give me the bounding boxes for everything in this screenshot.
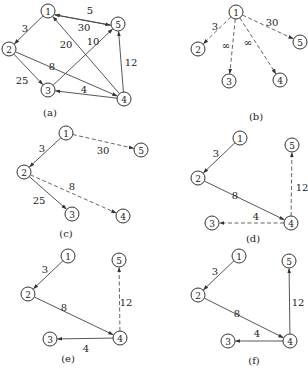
- edge-weight-label: 8: [234, 308, 240, 319]
- node-label: 1: [237, 134, 243, 144]
- node-label: 4: [277, 76, 283, 86]
- node-label: 3: [226, 77, 232, 87]
- edges: 38124: [203, 261, 304, 341]
- edge-weight-label: 8: [49, 61, 55, 72]
- dijkstra-figure: 3530258102041212345(a)3∞∞3012345(b)33025…: [0, 0, 308, 368]
- node-4: 4: [283, 334, 297, 348]
- edge-weight-label: 25: [16, 75, 29, 86]
- edge-weight-label: 12: [125, 57, 138, 68]
- edge-weight-label: ∞: [244, 37, 252, 48]
- panel-c: 33025812345(c): [17, 126, 148, 239]
- edge-1-to-2-arrow: [203, 261, 233, 290]
- node-2: 2: [21, 287, 35, 301]
- node-1: 1: [61, 249, 75, 263]
- panel-e: 3812412345(e): [21, 249, 132, 364]
- node-2: 2: [2, 42, 16, 56]
- panel-caption: (f): [248, 355, 260, 366]
- node-label: 3: [225, 337, 231, 347]
- node-3: 3: [221, 334, 235, 348]
- node-label: 2: [25, 290, 31, 300]
- edge-weight-label: 4: [254, 328, 260, 339]
- node-label: 2: [6, 45, 12, 55]
- edge-1-to-3-arrow: [230, 19, 236, 74]
- node-1: 1: [41, 4, 55, 18]
- node-1: 1: [233, 131, 247, 145]
- edges: 3∞∞30: [203, 15, 293, 74]
- node-1: 1: [229, 5, 243, 19]
- node-label: 1: [63, 129, 69, 139]
- node-label: 5: [138, 146, 144, 156]
- node-3: 3: [65, 207, 79, 221]
- edge-weight-label: 3: [42, 264, 48, 275]
- edge-weight-label: 4: [83, 343, 89, 354]
- panel-caption: (b): [249, 111, 263, 122]
- node-3: 3: [222, 74, 236, 88]
- panel-a: 3530258102041212345(a): [2, 4, 137, 118]
- node-3: 3: [205, 216, 219, 230]
- node-5: 5: [282, 254, 296, 268]
- edge-weight-label: 12: [292, 297, 305, 308]
- node-4: 4: [116, 209, 130, 223]
- node-4: 4: [284, 216, 298, 230]
- node-label: 2: [21, 168, 27, 178]
- node-1: 1: [59, 126, 73, 140]
- node-4: 4: [273, 73, 287, 87]
- edge-weight-label: 3: [213, 148, 219, 159]
- node-label: 4: [117, 334, 123, 344]
- node-4: 4: [117, 92, 131, 106]
- edge-weight-label: 10: [87, 36, 100, 47]
- edge-1-to-2-arrow: [14, 16, 43, 44]
- node-label: 4: [121, 95, 127, 105]
- node-label: 1: [236, 252, 242, 262]
- edge-4-to-5-arrow: [119, 31, 124, 92]
- node-label: 5: [115, 20, 121, 30]
- node-label: 2: [195, 291, 201, 301]
- node-5: 5: [111, 17, 125, 31]
- edge-weight-label: 30: [266, 17, 279, 28]
- edge-weight-label: 3: [212, 21, 218, 32]
- edge-weight-label: 4: [253, 211, 259, 222]
- edge-weight-label: 3: [212, 266, 218, 277]
- node-label: 3: [209, 219, 215, 229]
- edge-2-to-4-arrow: [204, 298, 283, 338]
- edge-weight-label: 30: [97, 145, 110, 156]
- panel-caption: (a): [43, 107, 57, 118]
- edge-weight-label: 4: [81, 84, 87, 95]
- edge-weight-label: 12: [120, 297, 133, 308]
- edge-2-to-4-arrow: [204, 181, 284, 220]
- edge-4-to-5-arrow: [289, 268, 290, 334]
- node-label: 5: [297, 38, 303, 48]
- node-2: 2: [191, 42, 205, 56]
- edge-weight-label: 5: [87, 5, 93, 16]
- node-label: 4: [288, 219, 294, 229]
- edge-4-to-5-arrow: [291, 152, 292, 216]
- node-label: 5: [286, 257, 292, 267]
- edge-weight-label: 8: [61, 302, 67, 313]
- node-label: 1: [65, 252, 71, 262]
- edge-weight-label: ∞: [222, 40, 230, 51]
- panel-caption: (e): [61, 353, 75, 364]
- panel-caption: (d): [246, 233, 260, 244]
- node-label: 5: [289, 141, 295, 151]
- node-1: 1: [232, 249, 246, 263]
- panel-d: 3812412345(d): [191, 131, 308, 244]
- edge-4-to-3-arrow: [57, 338, 113, 339]
- node-label: 4: [120, 212, 126, 222]
- panel-b: 3∞∞3012345(b): [191, 5, 307, 122]
- edge-2-to-4-arrow: [34, 297, 113, 335]
- node-2: 2: [191, 171, 205, 185]
- node-5: 5: [285, 138, 299, 152]
- node-label: 3: [47, 335, 53, 345]
- node-label: 1: [45, 7, 51, 17]
- node-label: 1: [233, 8, 239, 18]
- edge-weight-label: 8: [69, 181, 75, 192]
- edge-weight-label: 3: [39, 143, 45, 154]
- edge-weight-label: 12: [296, 182, 308, 193]
- edge-weight-label: 30: [78, 22, 91, 33]
- node-5: 5: [134, 143, 148, 157]
- node-2: 2: [17, 165, 31, 179]
- edge-weight-label: 25: [33, 195, 46, 206]
- node-label: 2: [195, 45, 201, 55]
- edge-weight-label: 3: [22, 23, 28, 34]
- node-label: 3: [69, 210, 75, 220]
